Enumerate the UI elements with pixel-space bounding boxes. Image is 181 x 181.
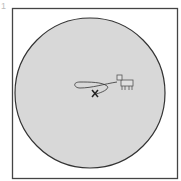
diagram [0,0,181,181]
circle-field [15,18,165,168]
